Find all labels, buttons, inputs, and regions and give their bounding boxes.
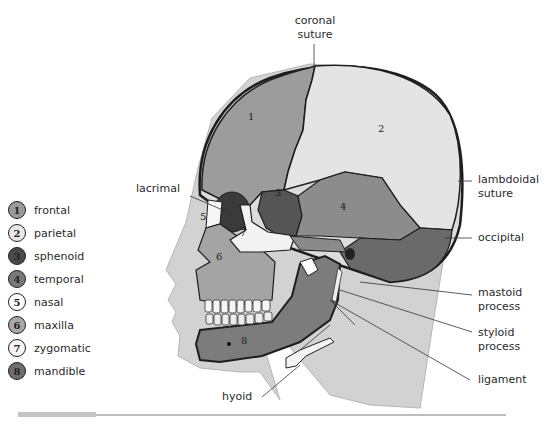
label-mastoid-process: mastoid process	[478, 286, 522, 314]
label-mastoid-line2: process	[478, 300, 522, 314]
legend-item-sphenoid: 3 sphenoid	[8, 246, 84, 266]
legend-circle-8: 8	[8, 362, 26, 380]
legend-item-frontal: 1 frontal	[8, 200, 70, 220]
legend-circle-6: 6	[8, 316, 26, 334]
label-coronal-line1: coronal	[290, 14, 340, 28]
legend-item-parietal: 2 parietal	[8, 223, 76, 243]
legend-label-frontal: frontal	[34, 204, 70, 217]
footer-accent-bar	[18, 412, 96, 417]
legend-item-zygomatic: 7 zygomatic	[8, 338, 91, 358]
legend-label-parietal: parietal	[34, 227, 76, 240]
legend-item-mandible: 8 mandible	[8, 361, 85, 381]
bone-number-5: 5	[200, 211, 206, 222]
legend-label-nasal: nasal	[34, 296, 63, 309]
bone-number-6: 6	[216, 251, 222, 262]
label-coronal-suture: coronal suture	[290, 14, 340, 42]
bone-number-4: 4	[340, 201, 346, 212]
legend-label-mandible: mandible	[34, 365, 85, 378]
label-lacrimal: lacrimal	[136, 182, 180, 196]
legend-circle-2: 2	[8, 224, 26, 242]
legend-label-sphenoid: sphenoid	[34, 250, 84, 263]
legend-item-nasal: 5 nasal	[8, 292, 63, 312]
label-styloid-line1: styloid	[478, 326, 520, 340]
label-coronal-line2: suture	[290, 28, 340, 42]
label-lambdoidal-suture: lambdoidal suture	[478, 173, 539, 201]
legend-item-maxilla: 6 maxilla	[8, 315, 74, 335]
bone-number-1: 1	[248, 111, 254, 122]
label-styloid-process: styloid process	[478, 326, 520, 354]
label-lambdoidal-line2: suture	[478, 187, 539, 201]
label-ligament: ligament	[478, 373, 527, 387]
ear-canal	[345, 248, 355, 260]
legend-circle-3: 3	[8, 247, 26, 265]
legend-circle-7: 7	[8, 339, 26, 357]
bone-number-3: 3	[275, 187, 281, 198]
legend-label-zygomatic: zygomatic	[34, 342, 91, 355]
label-mastoid-line1: mastoid	[478, 286, 522, 300]
label-lambdoidal-line1: lambdoidal	[478, 173, 539, 187]
legend-circle-5: 5	[8, 293, 26, 311]
label-hyoid: hyoid	[222, 390, 252, 404]
bone-number-7: 7	[240, 227, 246, 238]
label-styloid-line2: process	[478, 340, 520, 354]
bone-number-8: 8	[241, 335, 247, 346]
label-occipital: occipital	[478, 231, 524, 245]
legend-label-temporal: temporal	[34, 273, 84, 286]
lower-teeth	[206, 312, 272, 325]
legend-label-maxilla: maxilla	[34, 319, 74, 332]
legend-circle-4: 4	[8, 270, 26, 288]
mental-foramen	[227, 342, 231, 346]
upper-teeth	[205, 300, 270, 313]
bone-number-2: 2	[378, 123, 384, 134]
legend-item-temporal: 4 temporal	[8, 269, 84, 289]
legend-circle-1: 1	[8, 201, 26, 219]
